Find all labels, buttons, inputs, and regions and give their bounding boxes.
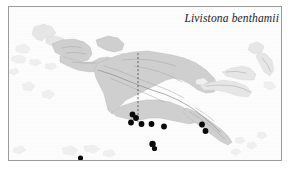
occurrence-dot: [199, 122, 205, 128]
southern-islets: [13, 145, 116, 157]
occurrence-dot: [139, 121, 145, 127]
species-caption: Livistona benthamii: [175, 12, 279, 24]
halmahera-islands: [9, 24, 66, 99]
occurrence-dot: [128, 120, 134, 126]
map-canvas: [0, 0, 292, 170]
distribution-map-figure: Livistona benthamii: [0, 0, 292, 170]
occurrence-dot: [152, 146, 157, 151]
southeast-islets: [231, 132, 267, 155]
bismarck-archipelago: [196, 42, 276, 97]
occurrence-dot: [203, 128, 209, 134]
occurrence-dot: [149, 121, 155, 127]
occurrence-dot: [161, 124, 167, 130]
occurrence-dot: [78, 155, 83, 160]
occurrence-dot: [133, 115, 139, 121]
